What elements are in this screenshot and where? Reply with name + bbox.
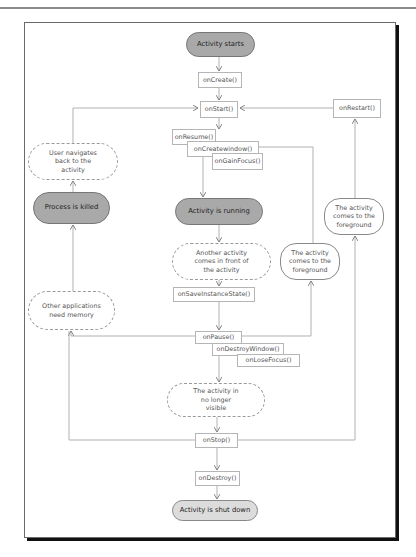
node-user-navigates-back: User navigates back to the activity <box>28 143 118 180</box>
node-on-stop: onStop() <box>195 433 238 448</box>
node-no-longer-visible: The activity in no longer visible <box>167 383 265 417</box>
node-another-activity-front: Another activity comes in front of the a… <box>172 243 271 280</box>
node-on-restart: onRestart() <box>333 99 381 118</box>
node-activity-running: Activity is running <box>175 198 263 225</box>
node-on-lose-focus: onLoseFocus() <box>237 354 300 367</box>
node-other-apps-need-memory: Other applications need memory <box>28 291 115 330</box>
node-activity-shut-down: Activity is shut down <box>172 500 258 521</box>
node-comes-to-foreground-1: The activity comes to the foreground <box>280 243 340 280</box>
node-on-gain-focus: onGainFocus() <box>212 153 263 170</box>
node-comes-to-foreground-2: The activity comes to the foreground <box>324 198 384 235</box>
node-activity-starts: Activity starts <box>186 32 255 57</box>
node-on-start: onStart() <box>200 101 238 118</box>
node-on-destroy: onDestroy() <box>195 471 240 486</box>
node-process-killed: Process is killed <box>33 192 110 224</box>
node-on-create: onCreate() <box>198 72 242 88</box>
node-on-save-instance-state: onSaveInstanceState() <box>173 287 255 302</box>
